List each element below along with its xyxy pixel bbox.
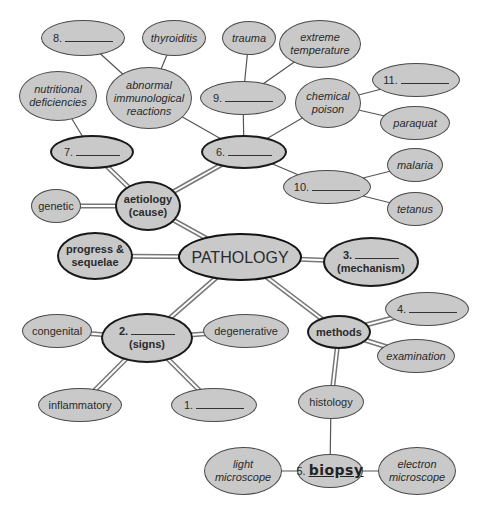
node-label: trauma (232, 32, 266, 45)
node-trauma: trauma (222, 21, 276, 55)
answer-blank[interactable] (312, 181, 360, 191)
node-blank-6[interactable]: 6. (201, 135, 287, 169)
answer-blank[interactable] (76, 146, 120, 156)
node-label-line2: temperature (290, 44, 349, 57)
node-label: examination (386, 350, 445, 363)
node-electron-microscope: electron microscope (378, 447, 456, 495)
node-extreme-temperature: extreme temperature (279, 20, 361, 68)
node-blank-4[interactable]: 4. (385, 292, 469, 326)
node-genetic: genetic (31, 189, 81, 223)
node-label: inflammatory (49, 399, 112, 412)
node-tetanus: tetanus (387, 192, 443, 226)
node-number: 6. (216, 146, 225, 158)
node-degenerative: degenerative (203, 314, 289, 348)
node-examination: examination (377, 339, 455, 373)
node-label-line2: poison (312, 103, 344, 116)
handwritten-answer[interactable]: biopsy (309, 462, 364, 478)
node-blank-9[interactable]: 9. (200, 81, 286, 115)
node-number: 5. (296, 465, 305, 477)
node-number: 3. (343, 249, 352, 261)
node-label: tetanus (397, 203, 433, 216)
node-blank-7[interactable]: 7. (50, 135, 134, 169)
node-label-line1: progress & (66, 243, 124, 256)
node-label-line1: electron (397, 458, 436, 471)
node-label-line1: abnormal (126, 79, 172, 92)
node-congenital: congenital (22, 314, 92, 348)
node-label: congenital (32, 325, 82, 338)
node-label-line1: nutritional (34, 83, 82, 96)
node-number: 2. (119, 325, 128, 337)
node-malaria: malaria (387, 148, 443, 182)
node-label-line1: extreme (300, 31, 340, 44)
node-biopsy[interactable]: 5.biopsy (297, 454, 363, 488)
answer-blank[interactable] (196, 399, 244, 409)
pathology-mind-map: 8. thyroiditis trauma extreme temperatur… (0, 0, 484, 516)
node-number: 10. (294, 181, 309, 193)
node-histology: histology (298, 385, 364, 419)
node-blank-10[interactable]: 10. (283, 170, 371, 204)
node-thyroiditis: thyroiditis (142, 20, 206, 56)
node-label: thyroiditis (151, 32, 197, 45)
node-blank-2-signs[interactable]: 2. (signs) (101, 313, 193, 363)
node-label: histology (309, 396, 352, 409)
answer-blank[interactable] (409, 303, 457, 313)
answer-blank[interactable] (131, 325, 175, 335)
node-label-line1: aetiology (124, 193, 172, 206)
node-label-line2: microscope (215, 471, 271, 484)
node-number: 1. (184, 399, 193, 411)
node-nutritional-deficiencies: nutritional deficiencies (19, 71, 97, 121)
node-number: 9. (213, 92, 222, 104)
node-methods: methods (307, 315, 371, 349)
node-label: malaria (397, 159, 433, 172)
node-label-line2: microscope (389, 471, 445, 484)
node-paraquat: paraquat (380, 106, 450, 140)
node-label-line2: (cause) (129, 206, 168, 219)
answer-blank[interactable] (355, 249, 399, 259)
node-aetiology: aetiology (cause) (115, 181, 181, 231)
center-label: PATHOLOGY (191, 251, 288, 264)
answer-blank[interactable] (65, 32, 113, 42)
node-blank-8[interactable]: 8. (41, 20, 125, 56)
node-label: paraquat (393, 117, 436, 130)
node-number: 7. (64, 146, 73, 158)
node-number: 4. (397, 303, 406, 315)
node-label-line2: (signs) (129, 338, 165, 351)
node-inflammatory: inflammatory (38, 388, 122, 422)
node-label-line3: reactions (127, 105, 172, 118)
node-light-microscope: light microscope (204, 447, 282, 495)
node-number: 8. (53, 32, 62, 44)
node-abnormal-immunological-reactions: abnormal immunological reactions (106, 67, 192, 129)
node-pathology: PATHOLOGY (178, 233, 302, 281)
answer-blank[interactable] (225, 92, 273, 102)
node-label-line2: immunological (114, 92, 184, 105)
node-blank-1[interactable]: 1. (171, 388, 257, 422)
node-label: genetic (38, 200, 73, 213)
node-blank-11[interactable]: 11. (372, 63, 460, 97)
answer-blank[interactable] (401, 74, 449, 84)
node-label: methods (316, 326, 362, 339)
node-label: degenerative (214, 325, 278, 338)
node-label-line1: chemical (306, 90, 349, 103)
node-progress-sequelae: progress & sequelae (57, 232, 133, 280)
node-label-line1: light (233, 458, 253, 471)
node-chemical-poison: chemical poison (295, 78, 361, 128)
node-label-line2: deficiencies (29, 96, 86, 109)
node-blank-3-mechanism[interactable]: 3. (mechanism) (323, 237, 419, 287)
answer-blank[interactable] (228, 146, 272, 156)
node-number: 11. (383, 74, 397, 86)
node-label-line2: sequelae (71, 256, 118, 269)
node-label-line2: (mechanism) (337, 262, 405, 275)
